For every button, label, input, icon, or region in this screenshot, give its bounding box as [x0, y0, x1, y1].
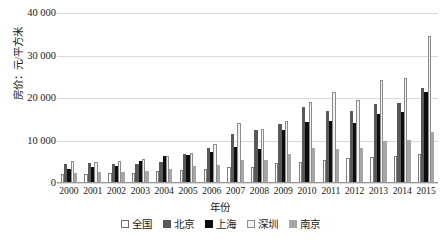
year-group [105, 13, 129, 183]
year-group [414, 13, 438, 183]
x-tick-label: 2005 [176, 185, 200, 199]
x-tick-label: 2000 [57, 185, 81, 199]
house-price-bar-chart: 房价：元/平方米 010 00020 00030 00040 000 20002… [0, 0, 440, 244]
plot-area [57, 13, 438, 183]
y-tick-label: 40 000 [0, 8, 56, 18]
legend: 全国北京上海深圳南京 [0, 216, 440, 231]
legend-label: 南京 [300, 216, 320, 231]
bar [407, 140, 410, 183]
y-tick-label: 10 000 [0, 136, 56, 146]
bar [360, 148, 363, 183]
year-group [57, 13, 81, 183]
legend-label: 北京 [174, 216, 194, 231]
x-tick-label: 2007 [224, 185, 248, 199]
x-tick-label: 2003 [128, 185, 152, 199]
legend-swatch-icon [247, 220, 255, 228]
year-group [319, 13, 343, 183]
legend-label: 上海 [216, 216, 236, 231]
year-group [248, 13, 272, 183]
x-tick-label: 2010 [295, 185, 319, 199]
legend-item[interactable]: 深圳 [247, 216, 278, 231]
legend-item[interactable]: 上海 [205, 216, 236, 231]
year-group [390, 13, 414, 183]
y-tick-label: 20 000 [0, 93, 56, 103]
bar-groups [57, 13, 438, 183]
legend-label: 深圳 [258, 216, 278, 231]
gridline [57, 183, 438, 184]
legend-swatch-icon [163, 220, 171, 228]
y-tick-label: 30 000 [0, 51, 56, 61]
legend-label: 全国 [132, 216, 152, 231]
x-tick-label: 2012 [343, 185, 367, 199]
bar [312, 148, 315, 183]
x-axis-title: 年份 [0, 199, 440, 214]
legend-swatch-icon [121, 220, 129, 228]
bar [169, 169, 172, 183]
x-tick-label: 2004 [152, 185, 176, 199]
legend-swatch-icon [289, 220, 297, 228]
bar [264, 160, 267, 183]
year-group [176, 13, 200, 183]
x-tick-label: 2011 [319, 185, 343, 199]
year-group [81, 13, 105, 183]
year-group [200, 13, 224, 183]
legend-item[interactable]: 南京 [289, 216, 320, 231]
x-tick-label: 2002 [105, 185, 129, 199]
x-tick-label: 2015 [414, 185, 438, 199]
y-tick-label: 0 [0, 178, 56, 188]
x-tick-label: 2001 [81, 185, 105, 199]
year-group [152, 13, 176, 183]
x-tick-label: 2009 [271, 185, 295, 199]
bar [193, 166, 196, 183]
legend-swatch-icon [205, 220, 213, 228]
legend-item[interactable]: 北京 [163, 216, 194, 231]
year-group [367, 13, 391, 183]
bar [383, 141, 386, 183]
x-tick-label: 2013 [367, 185, 391, 199]
bar [431, 132, 434, 183]
bar [336, 149, 339, 184]
bar [241, 160, 244, 183]
x-tick-label: 2006 [200, 185, 224, 199]
year-group [343, 13, 367, 183]
year-group [224, 13, 248, 183]
x-axis-line [57, 182, 438, 183]
legend-item[interactable]: 全国 [121, 216, 152, 231]
year-group [271, 13, 295, 183]
bar [217, 165, 220, 183]
bar [288, 154, 291, 183]
x-tick-label: 2008 [248, 185, 272, 199]
year-group [295, 13, 319, 183]
x-axis-tick-labels: 2000200120022003200420052006200720082009… [57, 185, 438, 199]
x-tick-label: 2014 [390, 185, 414, 199]
year-group [128, 13, 152, 183]
